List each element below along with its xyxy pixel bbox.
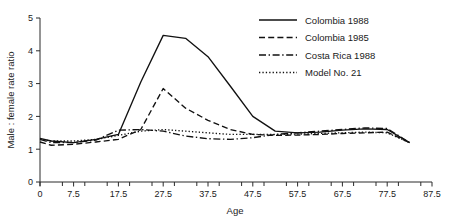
axis-lines [40,18,432,182]
x-tick-label: 37.5 [199,189,217,199]
y-tick-label: 3 [28,79,33,89]
x-tick-label: 77.5 [378,189,396,199]
chart-legend: Colombia 1988Colombia 1985Costa Rica 198… [259,15,375,79]
x-tick-label: 67.5 [334,189,352,199]
series-line-colombia-1985 [40,89,410,146]
x-tick-label: 17.5 [110,189,128,199]
legend-label-costa-rica-1988: Costa Rica 1988 [305,50,375,61]
x-tick-label: 27.5 [154,189,172,199]
x-tick-label: 57.5 [289,189,307,199]
y-tick-label: 2 [28,112,33,122]
x-tick-label: 0 [37,189,42,199]
y-axis-title: Male : female rate ratio [5,51,16,148]
axes [36,18,432,187]
x-tick-label: 7.5 [67,189,80,199]
y-tick-label: 4 [28,46,33,56]
legend-label-colombia-1985: Colombia 1985 [305,32,369,43]
x-tick-label: 47.5 [244,189,262,199]
x-tick-label: 87.5 [423,189,441,199]
tick-labels: 01234507.517.527.537.547.557.567.577.587… [28,13,441,199]
x-axis-title: Age [227,205,244,216]
chart-figure: 01234507.517.527.537.547.557.567.577.587… [0,0,467,222]
line-chart: 01234507.517.527.537.547.557.567.577.587… [0,0,467,222]
legend-label-model-no-21: Model No. 21 [305,67,362,78]
legend-label-colombia-1988: Colombia 1988 [305,15,369,26]
y-tick-label: 1 [28,145,33,155]
y-tick-label: 5 [28,13,33,23]
y-tick-label: 0 [28,177,33,187]
